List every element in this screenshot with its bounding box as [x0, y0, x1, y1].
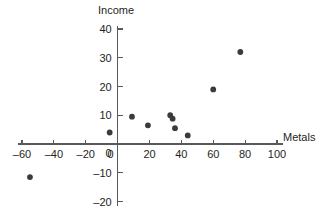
x-tick-label: 80: [239, 148, 251, 160]
data-point: [172, 125, 178, 131]
data-point: [129, 114, 135, 120]
data-point: [145, 122, 151, 128]
x-axis-title: Metals: [283, 131, 316, 143]
y-tick-label: 20: [99, 81, 111, 93]
x-tick-label: 100: [268, 148, 286, 160]
y-axis-ticks: –20–10010203040: [93, 23, 122, 208]
data-point: [237, 49, 243, 55]
y-axis-title: Income: [98, 4, 134, 16]
data-point: [107, 130, 113, 136]
data-points-group: [27, 49, 243, 180]
x-tick-label: –20: [77, 148, 95, 160]
chart-canvas: –60–40–20020406080100 –20–10010203040 In…: [0, 0, 320, 217]
y-tick-label: 40: [99, 23, 111, 35]
data-point: [170, 116, 176, 122]
data-point: [185, 132, 191, 138]
scatter-chart: –60–40–20020406080100 –20–10010203040 In…: [0, 0, 320, 217]
y-tick-label: 30: [99, 52, 111, 64]
data-point: [27, 174, 33, 180]
y-tick-label: –20: [93, 196, 111, 208]
x-tick-label: 60: [207, 148, 219, 160]
y-tick-label: –10: [93, 167, 111, 179]
x-tick-label: 20: [143, 148, 155, 160]
x-tick-label: 40: [175, 148, 187, 160]
axes-group: [18, 26, 283, 206]
y-tick-label: 0: [106, 147, 112, 159]
y-tick-label: 10: [99, 109, 111, 121]
x-tick-label: –40: [45, 148, 63, 160]
x-axis-ticks: –60–40–20020406080100: [13, 140, 286, 160]
x-tick-label: –60: [13, 148, 31, 160]
data-point: [210, 86, 216, 92]
